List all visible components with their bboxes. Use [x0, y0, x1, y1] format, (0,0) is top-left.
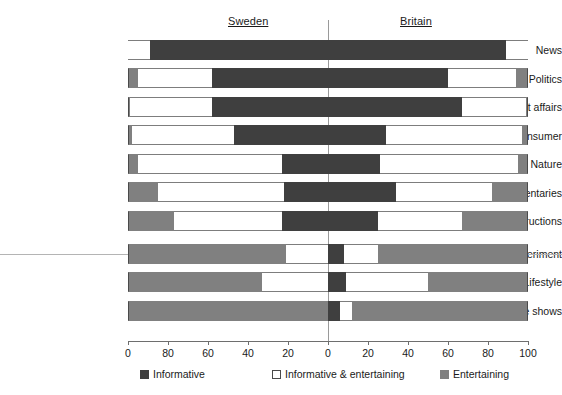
bar-segment-britain-informative-entertaining — [344, 244, 378, 264]
bar-segment-sweden-entertaining — [128, 182, 158, 202]
region-title-britain: Britain — [400, 15, 432, 27]
x-axis-tick-label: 0 — [325, 347, 331, 359]
legend-label-mixed: Informative & entertaining — [285, 368, 405, 380]
bar-segment-sweden-entertaining — [128, 301, 328, 321]
bar-row-reality-game-shows — [128, 301, 528, 321]
bar-segment-sweden-entertaining — [128, 272, 262, 292]
bar-segment-britain-informative — [328, 97, 462, 117]
legend: Informative Informative & entertaining E… — [0, 368, 562, 384]
legend-label-informative: Informative — [153, 368, 205, 380]
legend-item-entertaining: Entertaining — [440, 368, 509, 380]
legend-swatch-mixed-icon — [272, 370, 281, 379]
bar-segment-sweden-entertaining — [128, 97, 130, 117]
bar-segment-sweden-informative-entertaining — [138, 154, 282, 174]
x-axis-tick — [368, 341, 369, 345]
bar-segment-britain-informative — [328, 244, 344, 264]
legend-swatch-entertaining-icon — [440, 370, 449, 379]
region-title-sweden: Sweden — [228, 15, 268, 27]
x-axis-tick-label: 60 — [202, 347, 214, 359]
bar-row-politics — [128, 68, 528, 88]
bar-row-consumer — [128, 125, 528, 145]
bar-row-current-affairs — [128, 97, 528, 117]
bar-segment-britain-entertaining — [378, 244, 528, 264]
bar-segment-sweden-entertaining — [128, 68, 138, 88]
bar-segment-britain-informative-entertaining — [506, 40, 528, 60]
x-axis-tick — [528, 341, 529, 345]
bar-segment-britain-informative-entertaining — [378, 211, 462, 231]
bar-segment-britain-informative — [328, 40, 506, 60]
bar-segment-sweden-informative-entertaining — [286, 244, 328, 264]
bar-segment-britain-informative — [328, 211, 378, 231]
x-axis-tick — [448, 341, 449, 345]
bar-segment-sweden-entertaining — [128, 154, 138, 174]
legend-label-entertaining: Entertaining — [453, 368, 509, 380]
bar-segment-sweden-informative — [212, 97, 328, 117]
bar-segment-sweden-informative-entertaining — [138, 68, 212, 88]
legend-swatch-informative-icon — [140, 370, 149, 379]
bar-segment-britain-entertaining — [492, 182, 528, 202]
x-axis-tick-label: 20 — [362, 347, 374, 359]
x-axis-tick-label: 60 — [442, 347, 454, 359]
x-axis-tick-label: 40 — [242, 347, 254, 359]
bar-segment-sweden-informative-entertaining — [158, 182, 284, 202]
legend-item-mixed: Informative & entertaining — [272, 368, 405, 380]
bar-segment-sweden-informative-entertaining — [128, 40, 150, 60]
bar-segment-sweden-informative — [284, 182, 328, 202]
bar-segment-sweden-informative — [234, 125, 328, 145]
bar-segment-britain-entertaining — [352, 301, 528, 321]
bar-segment-sweden-informative — [212, 68, 328, 88]
bar-segment-britain-informative-entertaining — [448, 68, 516, 88]
bar-row-reconstructions — [128, 211, 528, 231]
bar-segment-sweden-informative-entertaining — [262, 272, 328, 292]
bar-segment-britain-informative — [328, 301, 340, 321]
bar-segment-sweden-entertaining — [128, 211, 174, 231]
bar-segment-britain-informative-entertaining — [462, 97, 526, 117]
x-axis-tick — [408, 341, 409, 345]
bar-segment-britain-informative — [328, 272, 346, 292]
bar-row-nature — [128, 154, 528, 174]
bar-row-news — [128, 40, 528, 60]
bar-segment-britain-informative-entertaining — [396, 182, 492, 202]
x-axis-tick-label: 20 — [282, 347, 294, 359]
bar-segment-britain-informative — [328, 125, 386, 145]
bar-segment-sweden-informative-entertaining — [132, 125, 234, 145]
bar-segment-sweden-entertaining — [128, 125, 132, 145]
x-axis-tick-label: 80 — [162, 347, 174, 359]
bar-segment-sweden-informative — [282, 211, 328, 231]
legend-item-informative: Informative — [140, 368, 205, 380]
bar-segment-britain-informative — [328, 154, 380, 174]
x-axis-tick — [128, 341, 129, 345]
x-axis-tick — [328, 341, 329, 345]
bar-segment-sweden-informative-entertaining — [130, 97, 212, 117]
x-axis-tick — [248, 341, 249, 345]
bar-segment-sweden-informative — [282, 154, 328, 174]
bar-segment-britain-entertaining — [462, 211, 528, 231]
bar-segment-britain-informative-entertaining — [386, 125, 522, 145]
bar-segment-britain-entertaining — [516, 68, 528, 88]
x-axis-tick — [288, 341, 289, 345]
x-axis-tick-label: 80 — [482, 347, 494, 359]
bar-segment-britain-informative-entertaining — [380, 154, 518, 174]
bar-row-lifestyle — [128, 272, 528, 292]
bar-segment-sweden-entertaining — [128, 244, 286, 264]
bar-segment-sweden-informative-entertaining — [174, 211, 282, 231]
x-axis-tick — [488, 341, 489, 345]
bar-segment-britain-informative-entertaining — [346, 272, 428, 292]
x-axis-tick — [168, 341, 169, 345]
bar-segment-britain-informative — [328, 182, 396, 202]
bar-segment-britain-entertaining — [526, 97, 528, 117]
diverging-stacked-bar-chart: Sweden Britain News Politics Current aff… — [0, 0, 562, 395]
x-axis-tick-label: 0 — [125, 347, 131, 359]
bar-row-life-experiment — [128, 244, 528, 264]
x-axis-tick-label: 40 — [402, 347, 414, 359]
plot-area — [128, 30, 528, 337]
x-axis-tick-label: 100 — [519, 347, 537, 359]
bar-segment-britain-entertaining — [522, 125, 528, 145]
bar-segment-britain-entertaining — [428, 272, 528, 292]
bar-segment-britain-informative-entertaining — [340, 301, 352, 321]
bar-segment-sweden-informative — [150, 40, 328, 60]
bar-row-documentaries — [128, 182, 528, 202]
x-axis-tick — [208, 341, 209, 345]
bar-segment-britain-informative — [328, 68, 448, 88]
bar-segment-britain-entertaining — [518, 154, 528, 174]
